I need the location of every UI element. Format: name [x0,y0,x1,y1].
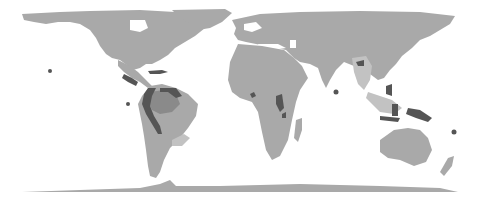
galapagos-hotspot [126,102,130,106]
hawaii-hotspot [48,69,52,73]
philippines-hotspot [386,84,392,96]
caspian [290,40,296,48]
world-map [0,0,477,202]
sri-lanka-hotspot [334,90,339,95]
fiji-hotspot [452,130,457,135]
sulawesi-hotspot [392,104,398,116]
